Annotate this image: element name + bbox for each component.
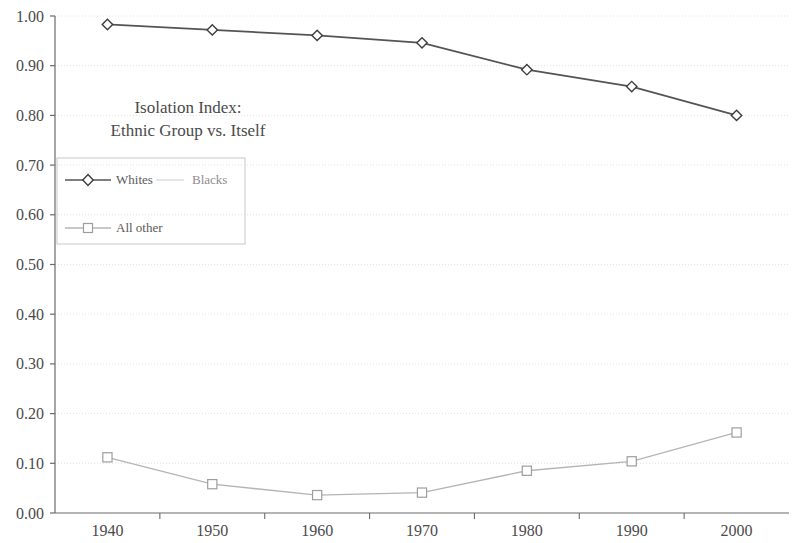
x-axis-tick-label: 1980 xyxy=(511,522,543,539)
square-marker-icon xyxy=(103,453,112,462)
y-axis-tick-label: 0.40 xyxy=(16,306,44,323)
chart-background xyxy=(0,0,793,543)
legend-label-blacks: Blacks xyxy=(192,172,227,187)
x-axis-tick-label: 1970 xyxy=(406,522,438,539)
chart-title: Isolation Index: xyxy=(134,98,241,117)
square-marker-icon xyxy=(522,466,531,475)
y-axis-tick-label: 0.10 xyxy=(16,455,44,472)
y-axis-tick-label: 0.30 xyxy=(16,355,44,372)
isolation-index-line-chart: 0.000.100.200.300.400.500.600.700.800.90… xyxy=(0,0,793,543)
y-axis-tick-label: 0.60 xyxy=(16,206,44,223)
chart-subtitle: Ethnic Group vs. Itself xyxy=(111,121,266,140)
x-axis-tick-label: 1990 xyxy=(616,522,648,539)
square-marker-icon xyxy=(208,480,217,489)
y-axis-tick-label: 0.90 xyxy=(16,57,44,74)
y-axis-tick-label: 1.00 xyxy=(16,8,44,25)
y-axis-tick-label: 0.80 xyxy=(16,107,44,124)
x-axis-tick-label: 1960 xyxy=(301,522,333,539)
square-marker-icon xyxy=(732,428,741,437)
legend-label-all-other: All other xyxy=(116,220,163,235)
x-axis-tick-label: 2000 xyxy=(721,522,753,539)
y-axis-tick-label: 0.00 xyxy=(16,505,44,522)
x-axis-tick-label: 1940 xyxy=(91,522,123,539)
square-marker-icon xyxy=(417,488,426,497)
y-axis-tick-label: 0.20 xyxy=(16,405,44,422)
y-axis-tick-label: 0.50 xyxy=(16,256,44,273)
legend-label-whites: Whites xyxy=(116,172,153,187)
square-marker-icon xyxy=(313,491,322,500)
x-axis-tick-label: 1950 xyxy=(196,522,228,539)
chart-container: 0.000.100.200.300.400.500.600.700.800.90… xyxy=(0,0,793,543)
y-axis-tick-label: 0.70 xyxy=(16,157,44,174)
square-marker-icon xyxy=(627,457,636,466)
square-marker-icon xyxy=(84,224,93,233)
